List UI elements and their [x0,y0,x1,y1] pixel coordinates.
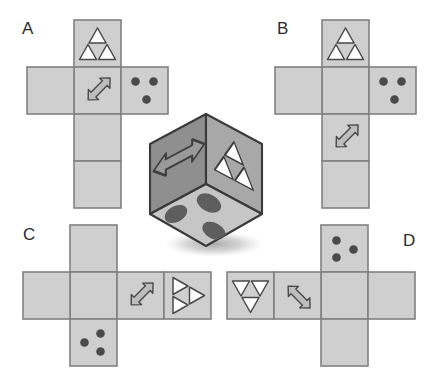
net-b-cell-right[interactable] [369,67,416,114]
net-a-cell-bottom[interactable] [74,161,121,208]
net-c-cell-above[interactable] [70,225,117,272]
net-b-cell-bottom[interactable] [322,161,369,208]
net-c-cell-center[interactable] [70,272,117,319]
net-d-cell-col4[interactable] [368,272,415,319]
puzzle-figure: A [0,0,440,373]
net-a-cell-left[interactable] [27,67,74,114]
three-dimensional-die[interactable] [140,96,308,261]
net-b-cell-center[interactable] [322,67,369,114]
net-d-cell-above[interactable] [321,225,368,272]
net-a-cell-lower[interactable] [74,114,121,161]
net-d-cell-center[interactable] [321,272,368,319]
net-c-cell-below[interactable] [70,319,117,366]
net-d-cell-below[interactable] [321,319,368,366]
net-c-cell-col1[interactable] [23,272,70,319]
